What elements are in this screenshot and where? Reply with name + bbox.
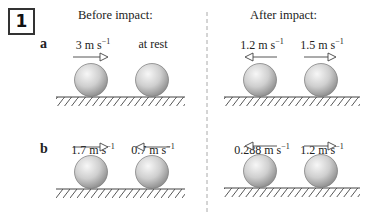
collision-diagram [0,0,367,213]
ground-a-after [224,97,360,106]
ground-a-before [56,97,185,106]
sphere-b-before-2 [136,156,169,189]
sphere-b-after-1 [244,155,277,188]
sphere-a-after-2 [305,64,338,97]
sphere-b-after-2 [305,155,338,188]
sphere-b-before-1 [75,156,108,189]
arrow-right-icon [304,53,336,61]
arrow-left-icon [245,53,277,61]
sphere-a-after-1 [244,64,277,97]
arrow-left-icon [136,143,170,151]
arrow-left-icon [245,142,277,150]
arrow-right-icon [304,142,336,150]
ground-b-before [56,189,185,198]
arrow-right-icon [73,143,108,151]
arrow-right-icon [73,53,108,61]
ground-b-after [224,188,360,197]
sphere-a-before-1 [75,64,108,97]
sphere-a-before-2 [136,64,169,97]
